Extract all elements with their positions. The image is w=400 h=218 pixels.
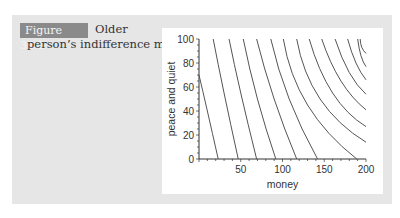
indifference-curve	[229, 39, 257, 159]
y-tick-label: 100	[177, 34, 194, 45]
y-tick-label: 80	[183, 58, 195, 69]
indifference-curve	[213, 39, 238, 159]
y-tick-label: 60	[183, 82, 195, 93]
indifference-curve	[309, 39, 366, 127]
x-tick-label: 50	[235, 164, 247, 175]
indifference-chart: 50100150200020406080100moneypeace and qu…	[0, 0, 400, 218]
y-tick-label: 20	[183, 130, 195, 141]
x-tick-label: 150	[316, 164, 333, 175]
indifference-curve	[199, 75, 218, 159]
x-axis-label: money	[267, 178, 299, 190]
indifference-curve	[257, 39, 297, 159]
x-tick-label: 100	[274, 164, 291, 175]
indifference-curve	[271, 39, 318, 159]
indifference-curve	[360, 39, 366, 53]
y-tick-label: 40	[183, 106, 195, 117]
y-axis-label: peace and quiet	[165, 62, 177, 137]
x-tick-label: 200	[358, 164, 375, 175]
y-tick-label: 0	[188, 154, 194, 165]
indifference-curve	[243, 39, 276, 159]
